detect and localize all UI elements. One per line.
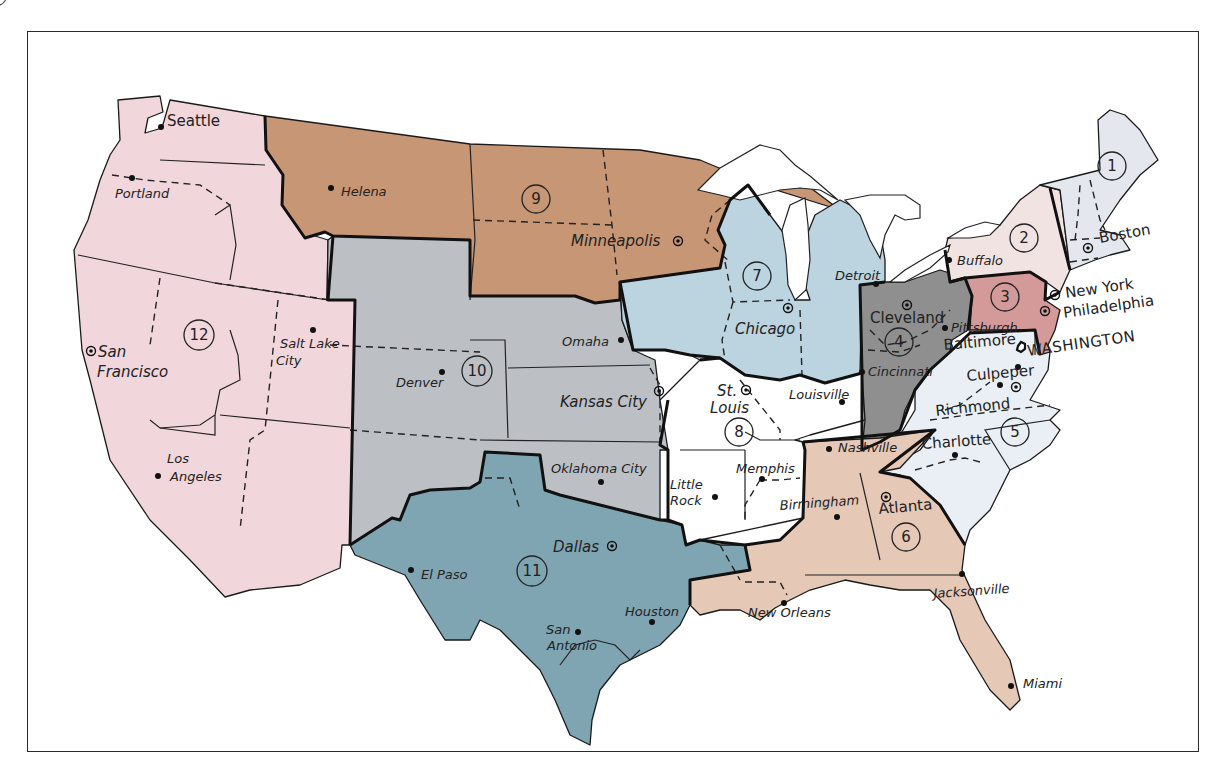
label-detroit: Detroit — [835, 268, 881, 283]
label-helena: Helena — [341, 184, 387, 199]
label-cincinnati: Cincinnati — [868, 364, 933, 379]
svg-text:1: 1 — [1107, 157, 1117, 175]
label-los-angeles-2: Angeles — [169, 469, 222, 484]
label-minneapolis: Minneapolis — [571, 232, 661, 250]
svg-text:2: 2 — [1019, 229, 1029, 247]
svg-text:8: 8 — [734, 423, 744, 441]
label-seattle: Seattle — [167, 112, 220, 130]
label-nashville: Nashville — [838, 440, 897, 455]
label-san-antonio-1: San — [546, 622, 570, 637]
svg-text:10: 10 — [467, 362, 486, 380]
label-new-orleans: New Orleans — [748, 605, 831, 620]
label-san-francisco-1: San — [98, 343, 126, 361]
svg-text:7: 7 — [752, 267, 762, 285]
label-dallas: Dallas — [553, 538, 599, 556]
svg-text:11: 11 — [522, 562, 541, 580]
label-little-rock-1: Little — [670, 477, 703, 492]
label-cleveland: Cleveland — [870, 309, 944, 327]
label-houston: Houston — [625, 604, 679, 619]
svg-text:4: 4 — [894, 333, 904, 351]
lake-superior — [698, 145, 838, 200]
label-miami: Miami — [1023, 676, 1062, 691]
label-st-louis-2: Louis — [710, 399, 749, 417]
label-san-antonio-2: Antonio — [546, 638, 597, 653]
svg-text:6: 6 — [901, 528, 911, 546]
svg-text:3: 3 — [1000, 288, 1010, 306]
label-salt-lake-1: Salt Lake — [280, 336, 340, 351]
label-memphis: Memphis — [736, 461, 795, 476]
label-st-louis-1: St. — [717, 382, 737, 400]
label-los-angeles-1: Los — [167, 451, 189, 466]
label-san-francisco-2: Francisco — [97, 363, 168, 381]
label-denver: Denver — [396, 375, 445, 390]
svg-text:12: 12 — [189, 326, 208, 344]
label-little-rock-2: Rock — [670, 493, 702, 508]
label-louisville: Louisville — [789, 387, 849, 402]
label-buffalo: Buffalo — [957, 253, 1003, 268]
label-portland: Portland — [115, 186, 170, 201]
label-omaha: Omaha — [562, 334, 609, 349]
svg-text:5: 5 — [1010, 423, 1020, 441]
svg-text:9: 9 — [531, 190, 541, 208]
label-kansas-city: Kansas City — [560, 393, 648, 411]
federal-reserve-district-map: 1 2 3 4 5 6 7 8 9 10 11 12 — [0, 0, 1215, 766]
label-chicago: Chicago — [735, 320, 795, 338]
label-salt-lake-2: City — [276, 353, 302, 368]
label-el-paso: El Paso — [421, 567, 468, 582]
label-oklahoma-city: Oklahoma City — [551, 461, 647, 476]
